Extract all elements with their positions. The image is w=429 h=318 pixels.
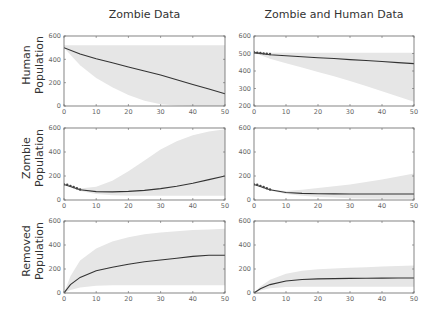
x-tick-label: 10 — [92, 295, 100, 303]
y-tick-label: 200 — [239, 102, 251, 110]
confidence-band — [64, 129, 225, 196]
confidence-band — [64, 229, 225, 293]
data-point-marker — [79, 188, 81, 190]
confidence-band — [254, 53, 414, 102]
y-tick-label: 200 — [49, 265, 61, 273]
x-tick-label: 20 — [124, 295, 132, 303]
x-tick-label: 30 — [346, 108, 354, 116]
y-tick-label: 600 — [239, 124, 251, 132]
x-tick-label: 10 — [282, 202, 290, 210]
y-tick-label: 400 — [239, 148, 251, 156]
data-point-marker — [269, 188, 271, 190]
data-point-marker — [269, 53, 271, 55]
x-tick-label: 40 — [189, 295, 197, 303]
y-tick-label: 200 — [49, 79, 61, 87]
x-tick-label: 40 — [378, 202, 386, 210]
x-tick-label: 0 — [252, 108, 256, 116]
y-tick-label: 400 — [239, 241, 251, 249]
data-point-marker — [259, 52, 261, 54]
x-tick-label: 40 — [378, 108, 386, 116]
confidence-band — [254, 265, 414, 293]
data-point-marker — [259, 185, 261, 187]
data-point-marker — [76, 187, 78, 189]
x-tick-label: 30 — [346, 202, 354, 210]
y-tick-label: 400 — [239, 67, 251, 75]
chart-panel-4: 010203040500200400600 — [239, 124, 419, 210]
y-tick-label: 0 — [57, 289, 61, 297]
x-tick-label: 40 — [378, 295, 386, 303]
chart-panel-1: 010203040500200400600 — [49, 32, 230, 116]
data-point-marker — [262, 186, 264, 188]
x-tick-label: 50 — [410, 295, 418, 303]
chart-panel-3: 010203040500200400600 — [49, 124, 230, 210]
x-tick-label: 10 — [92, 202, 100, 210]
x-tick-label: 10 — [282, 295, 290, 303]
chart-panel-2: 01020304050200300400500600 — [239, 32, 419, 116]
y-tick-label: 300 — [239, 85, 251, 93]
y-tick-label: 0 — [247, 196, 251, 204]
data-point-marker — [256, 183, 258, 185]
y-tick-label: 600 — [239, 32, 251, 40]
data-point-marker — [266, 52, 268, 54]
y-tick-label: 400 — [49, 56, 61, 64]
y-tick-label: 0 — [57, 196, 61, 204]
y-tick-label: 0 — [247, 289, 251, 297]
x-tick-label: 0 — [62, 108, 66, 116]
y-tick-label: 200 — [239, 265, 251, 273]
x-tick-label: 30 — [156, 295, 164, 303]
x-tick-label: 20 — [314, 295, 322, 303]
chart-panel-5: 010203040500200400600 — [49, 217, 230, 303]
data-point-marker — [72, 186, 74, 188]
x-tick-label: 10 — [282, 108, 290, 116]
chart-panel-6: 010203040500200400600 — [239, 217, 419, 303]
x-tick-label: 50 — [221, 202, 229, 210]
y-tick-label: 400 — [49, 241, 61, 249]
x-tick-label: 40 — [189, 108, 197, 116]
y-tick-label: 600 — [49, 217, 61, 225]
x-tick-label: 30 — [156, 202, 164, 210]
x-tick-label: 40 — [189, 202, 197, 210]
x-tick-label: 50 — [410, 202, 418, 210]
confidence-band — [254, 174, 414, 199]
data-point-marker — [262, 52, 264, 54]
x-tick-label: 0 — [252, 202, 256, 210]
x-tick-label: 50 — [221, 295, 229, 303]
y-tick-label: 600 — [239, 217, 251, 225]
confidence-band — [64, 45, 225, 106]
y-tick-label: 0 — [57, 102, 61, 110]
y-tick-label: 600 — [49, 32, 61, 40]
x-tick-label: 20 — [124, 108, 132, 116]
x-tick-label: 30 — [346, 295, 354, 303]
y-tick-label: 200 — [239, 172, 251, 180]
data-point-marker — [256, 51, 258, 53]
y-tick-label: 400 — [49, 148, 61, 156]
x-tick-label: 0 — [62, 202, 66, 210]
x-tick-label: 50 — [410, 108, 418, 116]
x-tick-label: 20 — [314, 108, 322, 116]
chart-grid: 0102030405002004006000102030405020030040… — [0, 0, 429, 318]
x-tick-label: 0 — [252, 295, 256, 303]
x-tick-label: 20 — [124, 202, 132, 210]
x-tick-label: 0 — [62, 295, 66, 303]
x-tick-label: 30 — [156, 108, 164, 116]
data-point-marker — [66, 183, 68, 185]
y-tick-label: 600 — [49, 124, 61, 132]
x-tick-label: 10 — [92, 108, 100, 116]
x-tick-label: 20 — [314, 202, 322, 210]
data-point-marker — [266, 187, 268, 189]
y-tick-label: 500 — [239, 50, 251, 58]
y-tick-label: 200 — [49, 172, 61, 180]
data-point-marker — [69, 185, 71, 187]
x-tick-label: 50 — [221, 108, 229, 116]
